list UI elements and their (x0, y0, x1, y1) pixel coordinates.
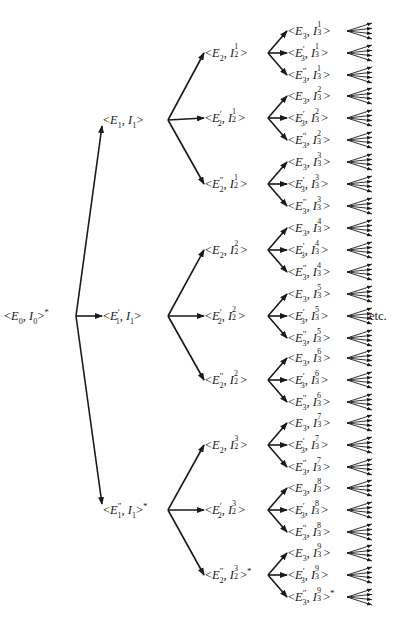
leaf-node-21: <E″3, I73> (288, 460, 330, 474)
leaf-node-27: <E″3, I93>* (288, 590, 334, 604)
level1-node-2: <E′1, I1> (103, 309, 141, 323)
leaf-node-24: <E″3, I83> (288, 525, 330, 539)
leaf-node-20: <E′3, I73> (288, 438, 328, 452)
level2-node-7: <E2, I32> (205, 438, 247, 452)
level2-node-5: <E′2, I22> (205, 309, 245, 323)
leaf-node-22: <E3, I83> (288, 481, 330, 495)
level2-node-8: <E′2, I32> (205, 503, 245, 517)
leaf-node-2: <E′3, I13> (288, 46, 328, 60)
leaf-node-26: <E′3, I93> (288, 568, 328, 582)
leaf-node-11: <E′3, I43> (288, 243, 328, 257)
leaf-node-6: <E″3, I23> (288, 133, 330, 147)
leaf-node-7: <E3, I33> (288, 155, 330, 169)
level2-node-1: <E2, I12> (205, 46, 247, 60)
level2-node-6: <E″2, I22> (205, 373, 247, 387)
leaf-node-15: <E″3, I53> (288, 331, 330, 345)
leaf-node-4: <E3, I23> (288, 89, 330, 103)
level2-node-9: <E″2, I32>* (205, 568, 251, 582)
leaf-node-3: <E″3, I13> (288, 68, 330, 82)
root-node: <E0, I0>* (4, 309, 49, 323)
leaf-node-12: <E″3, I43> (288, 265, 330, 279)
leaf-node-9: <E″3, I33> (288, 199, 330, 213)
level2-node-2: <E′2, I12> (205, 111, 245, 125)
leaf-node-18: <E″3, I63> (288, 395, 330, 409)
continuation-label: etc. (369, 309, 387, 324)
level1-node-1: <E1, I1> (103, 113, 143, 127)
level1-node-3: <E″1, I1>* (103, 503, 147, 517)
leaf-node-25: <E3, I93> (288, 546, 330, 560)
leaf-node-13: <E3, I53> (288, 287, 330, 301)
tree-edges (0, 0, 407, 638)
leaf-node-5: <E′3, I23> (288, 111, 328, 125)
leaf-node-17: <E′3, I63> (288, 373, 328, 387)
leaf-node-23: <E′3, I83> (288, 503, 328, 517)
leaf-node-10: <E3, I43> (288, 221, 330, 235)
leaf-node-8: <E′3, I33> (288, 177, 328, 191)
leaf-node-19: <E3, I73> (288, 416, 330, 430)
leaf-node-16: <E3, I63> (288, 351, 330, 365)
leaf-node-14: <E′3, I53> (288, 309, 328, 323)
level2-node-4: <E2, I22> (205, 243, 247, 257)
level2-node-3: <E″2, I12> (205, 177, 247, 191)
leaf-node-1: <E3, I13> (288, 24, 330, 38)
